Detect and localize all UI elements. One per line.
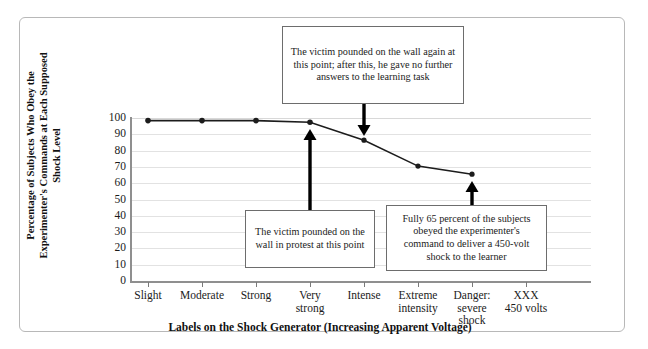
y-axis-title: Percentage of Subjects Who Obey the Expe… xyxy=(24,51,63,261)
gridline-80 xyxy=(131,151,591,152)
y-tick-label: 80 xyxy=(115,145,127,156)
y-tick-label: 0 xyxy=(120,275,126,286)
y-tick-label: 60 xyxy=(115,177,127,188)
x-tick-intense xyxy=(364,282,365,287)
x-tick-danger-severe-shock xyxy=(472,282,473,287)
x-tick-xxx-450-volts xyxy=(526,282,527,287)
y-tick-label: 50 xyxy=(115,194,127,205)
annotation-box-victim-pounded-again: The victim pounded on the wall again at … xyxy=(282,26,464,104)
y-axis-spine xyxy=(130,117,132,282)
x-tick-very-strong xyxy=(310,282,311,287)
gridline-100 xyxy=(131,118,591,119)
x-tick-strong xyxy=(256,282,257,287)
x-tick-moderate xyxy=(202,282,203,287)
gridline-50 xyxy=(131,200,591,201)
y-tick-label: 90 xyxy=(115,128,127,139)
annotation-box-fully-65-percent: Fully 65 percent of the subjects obeyed … xyxy=(386,205,547,271)
x-axis-spine xyxy=(130,281,591,283)
x-tick-slight xyxy=(148,282,149,287)
y-tick-label: 100 xyxy=(109,112,126,123)
annotation-box-victim-pounded-protest: The victim pounded on the wall in protes… xyxy=(245,210,375,268)
gridline-70 xyxy=(131,167,591,168)
annotation-text: The victim pounded on the wall again at … xyxy=(289,46,457,84)
x-axis-title: Labels on the Shock Generator (Increasin… xyxy=(90,321,550,333)
y-tick-label: 10 xyxy=(115,259,127,270)
gridline-90 xyxy=(131,134,591,135)
annotation-text: The victim pounded on the wall in protes… xyxy=(252,226,368,251)
annotation-text: Fully 65 percent of the subjects obeyed … xyxy=(393,213,540,263)
x-tick-label-xxx-450-volts: XXX 450 volts xyxy=(486,289,566,314)
y-tick-label: 40 xyxy=(115,210,127,221)
x-tick-label-line: strong xyxy=(270,302,350,315)
x-tick-label-line: 450 volts xyxy=(486,302,566,315)
y-tick-label: 20 xyxy=(115,242,127,253)
x-tick-label-line: XXX xyxy=(486,289,566,302)
x-tick-extreme-intensity xyxy=(418,282,419,287)
y-tick-label: 70 xyxy=(115,161,127,172)
gridline-60 xyxy=(131,183,591,184)
y-tick-label: 30 xyxy=(115,226,127,237)
